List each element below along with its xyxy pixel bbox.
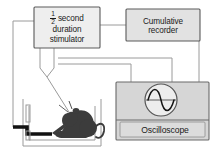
diagram-canvas (0, 0, 214, 153)
wire-stimulator-to-oscilloscope-upper (58, 58, 172, 82)
apparatus-diagram: 1 2 second duration stimulator Cumulativ… (0, 0, 214, 153)
rat-haunch (79, 119, 97, 137)
electrode-wire-to-head (47, 77, 69, 112)
stimulator-box (34, 7, 100, 48)
oscilloscope-unit (116, 82, 209, 140)
wire-stimulator-to-oscilloscope-lower (58, 64, 131, 82)
rat-ear (73, 108, 80, 114)
rat-subject (52, 101, 104, 138)
electrode-lead-assembly (40, 47, 69, 112)
chamber-lever (13, 127, 52, 134)
rat-head-electrode (69, 101, 72, 109)
oscilloscope-label-plate (120, 122, 205, 137)
electrode-funnel (40, 47, 54, 77)
cumulative-recorder-box (126, 9, 200, 41)
